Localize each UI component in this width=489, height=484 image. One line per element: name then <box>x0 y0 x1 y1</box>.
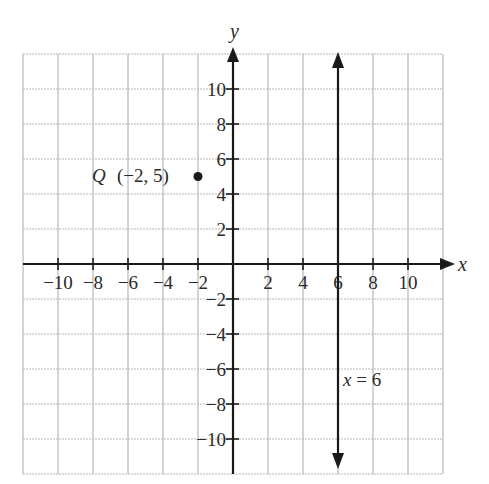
y-tick-label: −4 <box>206 324 227 345</box>
y-tick-label: 10 <box>207 79 226 100</box>
y-tick-label: −10 <box>196 429 226 450</box>
y-axis-label: y <box>228 20 239 43</box>
x-tick-label: −6 <box>118 272 138 293</box>
coordinate-plane: −10−8−6−4−2246810108642−2−4−6−8−10 y x Q… <box>0 0 489 484</box>
y-tick-label: 8 <box>217 114 227 135</box>
y-tick-label: 2 <box>217 219 227 240</box>
x-tick-label: 4 <box>298 272 308 293</box>
x-tick-label: −8 <box>83 272 103 293</box>
y-tick-label: −6 <box>206 359 226 380</box>
point-dot <box>194 172 203 181</box>
x-tick-label: 2 <box>263 272 273 293</box>
y-tick-label: 4 <box>217 184 227 205</box>
y-tick-label: −2 <box>206 289 226 310</box>
y-tick-label: −8 <box>206 394 226 415</box>
axes <box>23 47 455 474</box>
line-equation-rest: = 6 <box>351 369 381 390</box>
x-axis-arrow-icon <box>440 258 455 270</box>
y-tick-label: 6 <box>217 149 227 170</box>
x-tick-label: 10 <box>399 272 418 293</box>
x-tick-label: −10 <box>43 272 73 293</box>
x-tick-label: 8 <box>368 272 378 293</box>
line-arrow-down-icon <box>332 453 344 469</box>
point-q-name: Q <box>92 165 106 186</box>
x-tick-label: −4 <box>153 272 174 293</box>
point-q-coords: (−2, 5) <box>117 165 169 187</box>
point-q <box>194 172 203 181</box>
x-axis-label: x <box>457 253 467 275</box>
line-equation-label: x = 6 <box>342 369 381 390</box>
vertical-line-x6 <box>332 52 344 469</box>
